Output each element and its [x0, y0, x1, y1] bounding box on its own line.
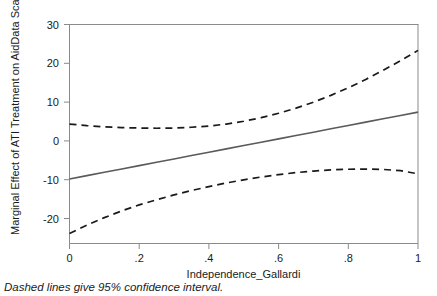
y-tick-label-neg10: -10 — [43, 174, 59, 186]
y-tick-label-20: 20 — [47, 57, 59, 69]
axes — [70, 24, 419, 244]
y-tick-label-10: 10 — [47, 96, 59, 108]
y-tick-label-30: 30 — [47, 19, 59, 31]
y-tick-label-neg20: -20 — [43, 213, 59, 225]
marginal-effect-plot: Marginal Effect of ATI Treatment on AidD… — [0, 0, 437, 296]
figure-container: Marginal Effect of ATI Treatment on AidD… — [0, 0, 437, 296]
x-axis-ticks: 0 .2 .4 .6 .8 1 — [66, 244, 421, 265]
series-line-1 — [70, 50, 419, 128]
figure-caption: Dashed lines give 95% confidence interva… — [4, 281, 223, 293]
y-axis-ticks: 30 20 10 0 -10 -20 — [43, 19, 69, 225]
y-axis-title: Marginal Effect of ATI Treatment on AidD… — [9, 0, 21, 235]
x-tick-label-0-6: .6 — [274, 252, 283, 264]
series-line-2 — [70, 169, 419, 234]
x-tick-label-1: 1 — [415, 252, 421, 264]
y-tick-label-0: 0 — [53, 135, 59, 147]
x-tick-label-0-4: .4 — [204, 252, 213, 264]
x-tick-label-0: 0 — [66, 252, 72, 264]
x-tick-label-0-2: .2 — [135, 252, 144, 264]
data-series-layer — [70, 50, 419, 233]
x-tick-label-0-8: .8 — [344, 252, 353, 264]
